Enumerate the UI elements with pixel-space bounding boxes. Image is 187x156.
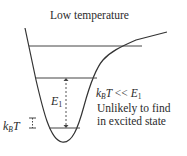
thermal-energy-label: kBT — [3, 120, 20, 134]
potential-well-diagram: Low temperature E1 kBT kBT << E1 Unlikel… — [0, 0, 187, 156]
potential-well-svg — [0, 0, 187, 156]
energy-gap-label: E1 — [51, 95, 62, 109]
note-line-2: in excited state — [97, 116, 166, 128]
thermal-energy-marker — [29, 118, 36, 128]
low-temperature-condition: kBT << E1 — [96, 88, 141, 101]
diagram-title: Low temperature — [50, 10, 129, 22]
note-line-1: Unlikely to find — [97, 103, 170, 115]
